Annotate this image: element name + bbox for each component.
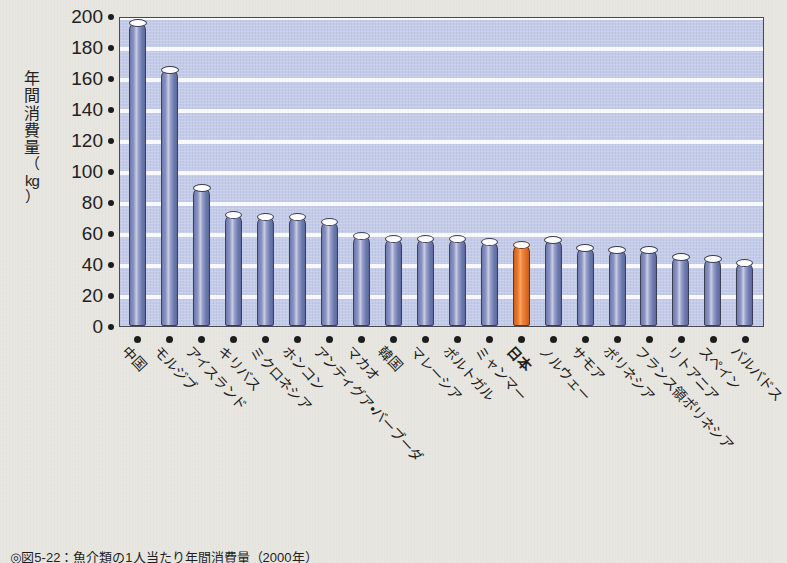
y-axis-tick-label: 20 (82, 285, 103, 307)
y-axis-tick-dot-icon (108, 169, 114, 175)
bar-cap (193, 184, 210, 192)
y-axis-title: 年 間 消 費 量 （ kg ） (12, 70, 52, 205)
bar-cap (513, 241, 530, 249)
bar-cap (225, 211, 242, 219)
y-axis-tick-dot-icon (108, 231, 114, 237)
bar-cap (736, 259, 753, 267)
y-axis-tick-dot-icon (108, 107, 114, 113)
bar (449, 238, 466, 326)
y-axis-tick-dot-icon (108, 293, 114, 299)
y-axis-tick: 140 (71, 100, 114, 120)
y-axis-tick: 160 (71, 69, 114, 89)
y-axis-tick-dot-icon (108, 14, 114, 20)
x-axis-labels: 中国モルジブアイスランドキリバスミクロネシアホンコンアンティグア・バーブーダマカ… (119, 341, 764, 541)
bar-cap (576, 244, 593, 252)
y-axis-tick-label: 140 (71, 99, 103, 121)
y-axis-tick: 60 (82, 224, 114, 244)
bar (289, 216, 306, 326)
y-axis-title-paren-open: （ (12, 156, 52, 172)
y-axis-tick-label: 100 (71, 161, 103, 183)
bar (481, 241, 498, 326)
bar-cap (672, 253, 689, 261)
bar (609, 249, 626, 327)
bar (513, 244, 530, 326)
y-axis-tick: 0 (92, 317, 114, 337)
bar-cap (385, 235, 402, 243)
plot-area (119, 17, 764, 327)
bar (161, 69, 178, 326)
bar (257, 216, 274, 326)
y-axis-tick-dot-icon (108, 45, 114, 51)
y-axis-tick: 100 (71, 162, 114, 182)
y-axis-title-char: 年 (12, 70, 52, 87)
bar (704, 258, 721, 326)
y-axis-ticks: 200180160140120100806040200 (48, 0, 114, 340)
y-axis-tick-dot-icon (108, 138, 114, 144)
y-axis-tick-dot-icon (108, 200, 114, 206)
bar-cap (449, 235, 466, 243)
bar (193, 187, 210, 327)
y-axis-unit: kg (12, 173, 52, 189)
y-axis-title-paren-close: ） (12, 189, 52, 205)
y-axis-tick-dot-icon (108, 76, 114, 82)
bar-cap (417, 235, 434, 243)
y-axis-tick-dot-icon (108, 262, 114, 268)
bar (672, 256, 689, 326)
y-axis-tick-label: 80 (82, 192, 103, 214)
bar (353, 235, 370, 326)
y-axis-tick-label: 120 (71, 130, 103, 152)
bar-cap (161, 66, 178, 74)
bar (417, 238, 434, 326)
bar (129, 22, 146, 326)
bar (545, 239, 562, 326)
bar-cap (640, 246, 657, 254)
bar-series (120, 18, 763, 326)
bar-cap (544, 236, 561, 244)
bar-cap (704, 255, 721, 263)
y-axis-tick-label: 160 (71, 68, 103, 90)
bar-cap (353, 232, 370, 240)
y-axis-tick: 40 (82, 255, 114, 275)
y-axis-title-char: 間 (12, 87, 52, 104)
bar (321, 221, 338, 326)
bar-cap (257, 213, 274, 221)
bar-cap (129, 19, 146, 27)
bar (736, 262, 753, 326)
y-axis-tick: 20 (82, 286, 114, 306)
y-axis-title-char: 消 (12, 105, 52, 122)
bar (577, 247, 594, 326)
y-axis-title-char: 量 (12, 139, 52, 156)
y-axis-tick: 200 (71, 7, 114, 27)
bar (225, 214, 242, 326)
bar-cap (481, 238, 498, 246)
x-axis-label: 中国 (118, 341, 151, 375)
y-axis-tick-label: 40 (82, 254, 103, 276)
y-axis-tick-dot-icon (108, 324, 114, 330)
bar (640, 249, 657, 327)
y-axis-tick-label: 180 (71, 37, 103, 59)
y-axis-tick-label: 200 (71, 6, 103, 28)
y-axis-tick: 180 (71, 38, 114, 58)
bar-cap (608, 246, 625, 254)
y-axis-title-char: 費 (12, 122, 52, 139)
bar (385, 238, 402, 326)
bar-cap (321, 218, 338, 226)
y-axis-tick: 120 (71, 131, 114, 151)
bar-cap (289, 213, 306, 221)
y-axis-tick-label: 60 (82, 223, 103, 245)
y-axis-tick-label: 0 (92, 316, 103, 338)
figure-caption: ◎図5-22：魚介類の1人当たり年間消費量（2000年） (10, 550, 318, 563)
y-axis-tick: 80 (82, 193, 114, 213)
